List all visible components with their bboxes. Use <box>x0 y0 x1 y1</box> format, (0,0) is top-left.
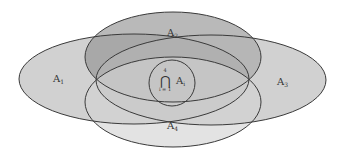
venn-diagram: A1A2A3A44⋂i = 1Ai <box>0 0 345 157</box>
venn-svg: A1A2A3A44⋂i = 1Ai <box>0 0 345 157</box>
svg-text:i = 1: i = 1 <box>159 86 171 92</box>
